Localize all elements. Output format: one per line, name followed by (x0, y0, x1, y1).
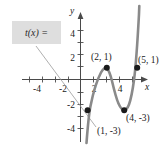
y-tick-label-neg2: -2 (67, 100, 75, 110)
y-axis-arrow (78, 12, 84, 19)
x-axis-label: x (144, 82, 150, 92)
point-label-1-neg3: (1, -3) (97, 126, 121, 137)
x-axis (22, 77, 148, 83)
point-label-4-neg3: (4, -3) (126, 113, 150, 124)
function-label-box: t(x) = (11, 20, 62, 45)
point-marker-5-1 (134, 65, 140, 71)
point-marker-2-1 (104, 65, 110, 71)
x-tick-label-neg2: -2 (59, 84, 67, 94)
x-tick-label-4: 4 (118, 84, 123, 94)
point-marker-1-neg3 (85, 107, 91, 113)
point-label-5-1: (5, 1) (138, 55, 159, 66)
function-label-text: t(x) = (25, 27, 48, 38)
y-tick-label-4: 4 (70, 29, 75, 39)
x-tick-label-neg4: -4 (33, 84, 41, 94)
annotation-leader-line (36, 46, 96, 127)
y-axis-label: y (69, 6, 75, 16)
y-tick-label-neg4: -4 (67, 124, 75, 134)
point-label-2-1: (2, 1) (91, 52, 112, 63)
y-axis (78, 12, 84, 142)
y-tick-label-2: 2 (70, 53, 75, 63)
